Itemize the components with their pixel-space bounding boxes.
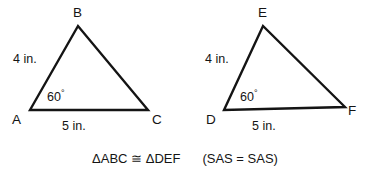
- congruence-statement: ΔABC ≅ ΔDEF: [92, 151, 180, 166]
- vertex-label-d: D: [206, 113, 216, 127]
- vertex-label-c: C: [152, 113, 162, 127]
- vertex-label-a: A: [12, 113, 21, 127]
- degree-symbol-icon: °: [61, 88, 65, 98]
- side-label-ac-length: 5 in.: [62, 120, 86, 133]
- angle-label-d: 60°: [240, 89, 258, 104]
- degree-symbol-icon-2: °: [254, 88, 258, 98]
- side-label-df-length: 5 in.: [252, 120, 276, 133]
- geometry-figure: A B C 4 in. 5 in. 60° D E F 4 in. 5 in. …: [0, 0, 370, 180]
- angle-label-a: 60°: [47, 89, 65, 104]
- vertex-label-f: F: [348, 104, 356, 118]
- conclusion-line: ΔABC ≅ ΔDEF(SAS = SAS): [0, 152, 370, 165]
- side-label-de-length: 4 in.: [205, 53, 229, 66]
- vertex-label-b: B: [73, 6, 82, 20]
- side-label-ab-length: 4 in.: [13, 53, 37, 66]
- angle-label-a-value: 60: [47, 90, 61, 104]
- vertex-label-e: E: [258, 6, 267, 20]
- angle-label-d-value: 60: [240, 90, 254, 104]
- congruence-reason: (SAS = SAS): [202, 151, 278, 166]
